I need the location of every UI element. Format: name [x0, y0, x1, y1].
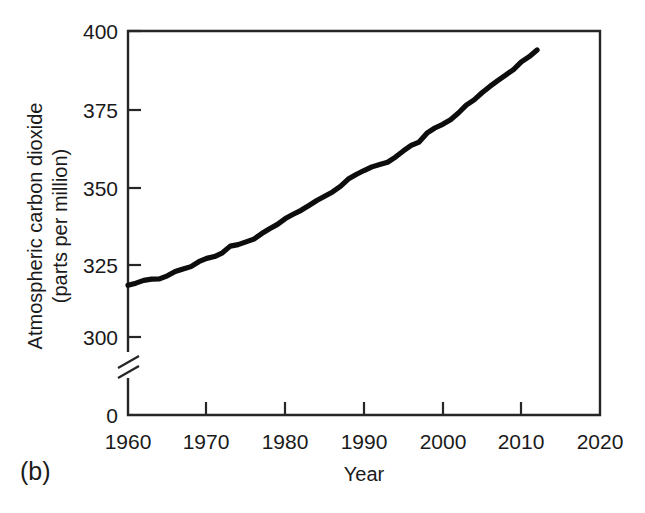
y-axis-title-line2: (parts per million)	[49, 149, 71, 303]
y-tick-label-zero: 0	[106, 404, 118, 427]
x-tick-label-2020: 2020	[577, 430, 624, 453]
y-tick-label-350: 350	[83, 177, 118, 200]
co2-data-line	[128, 50, 537, 285]
x-tick-label-1970: 1970	[183, 430, 230, 453]
y-tick-label-400: 400	[83, 20, 118, 43]
panel-label: (b)	[20, 457, 51, 485]
y-tick-label-375: 375	[83, 99, 118, 122]
y-axis-ticks	[128, 31, 141, 337]
y-tick-label-325: 325	[83, 254, 118, 277]
x-axis-title: Year	[344, 463, 385, 485]
x-tick-label-1990: 1990	[341, 430, 388, 453]
co2-line-chart: 400 375 350 325 300 0 1960 1970 1980 199…	[0, 0, 645, 513]
x-tick-label-2010: 2010	[498, 430, 545, 453]
y-tick-label-300: 300	[83, 326, 118, 349]
y-axis-title-line1: Atmospheric carbon dioxide	[24, 103, 46, 350]
y-axis-break-icon	[118, 352, 139, 378]
x-axis-ticks	[206, 402, 521, 415]
x-tick-label-1980: 1980	[262, 430, 309, 453]
axis-frame	[128, 31, 600, 415]
figure-panel-b: 400 375 350 325 300 0 1960 1970 1980 199…	[0, 0, 645, 513]
x-tick-label-1960: 1960	[105, 430, 152, 453]
x-tick-label-2000: 2000	[420, 430, 467, 453]
